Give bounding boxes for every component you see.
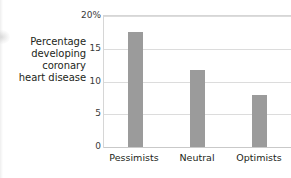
- bar-chart-figure: Percentage developing coronary heart dis…: [0, 0, 291, 178]
- x-tick-label-pessimists: Pessimists: [109, 152, 158, 163]
- x-axis-tick-labels: PessimistsNeutralOptimists: [103, 152, 291, 170]
- x-tick-label-neutral: Neutral: [179, 152, 214, 163]
- bar-pessimists: [128, 32, 143, 147]
- y-tick-label-0: 0: [61, 142, 101, 151]
- y-tick-label-15: 15: [61, 44, 101, 53]
- gridline-0: [104, 147, 291, 148]
- gridline-20: [104, 16, 291, 17]
- x-tick-label-optimists: Optimists: [236, 152, 281, 163]
- scan-edge-artifact: [0, 0, 3, 178]
- y-tick-label-10: 10: [61, 77, 101, 86]
- bar-neutral: [190, 70, 205, 147]
- bar-optimists: [252, 95, 267, 147]
- y-tick-label-5: 5: [61, 109, 101, 118]
- y-axis-tick-labels: 05101520%: [55, 15, 101, 148]
- plot-area: [103, 15, 291, 148]
- y-tick-label-20: 20%: [61, 11, 101, 20]
